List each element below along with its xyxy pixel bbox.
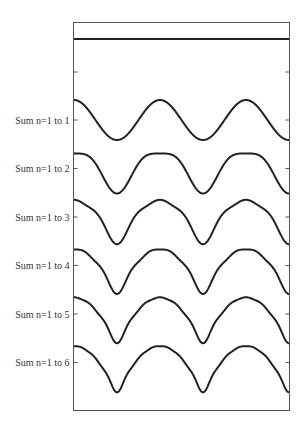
- y-tick-label: Sum n=1 to 2: [15, 163, 69, 174]
- series-curves: [74, 39, 289, 392]
- series-curve-1: [74, 100, 289, 140]
- y-tick-label: Sum n=1 to 4: [15, 260, 69, 271]
- y-tick-labels: Sum n=1 to 1Sum n=1 to 2Sum n=1 to 3Sum …: [15, 115, 69, 369]
- fourier-partial-sums-chart: Sum n=1 to 1Sum n=1 to 2Sum n=1 to 3Sum …: [0, 0, 304, 431]
- axis-ticks: [74, 72, 290, 363]
- series-curve-3: [74, 200, 289, 244]
- series-curve-6: [74, 346, 289, 392]
- y-tick-label: Sum n=1 to 5: [15, 309, 69, 320]
- y-tick-label: Sum n=1 to 1: [15, 115, 69, 126]
- series-curve-2: [74, 154, 289, 194]
- series-curve-5: [74, 297, 289, 343]
- y-tick-label: Sum n=1 to 3: [15, 212, 69, 223]
- y-tick-label: Sum n=1 to 6: [15, 357, 69, 368]
- series-curve-4: [74, 250, 289, 294]
- plot-frame: [74, 23, 290, 411]
